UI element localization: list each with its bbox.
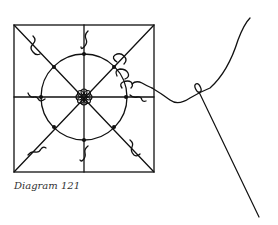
thread-loop	[121, 81, 133, 88]
thread-loop	[130, 95, 146, 101]
thread-loop	[130, 140, 140, 156]
thread-loop	[31, 36, 40, 55]
needle	[199, 92, 259, 217]
needle-eye	[194, 83, 203, 93]
thread-loop	[132, 82, 152, 88]
thread-loop	[113, 54, 126, 64]
diagram-figure	[0, 0, 278, 225]
diagram-caption: Diagram 121	[14, 180, 80, 191]
